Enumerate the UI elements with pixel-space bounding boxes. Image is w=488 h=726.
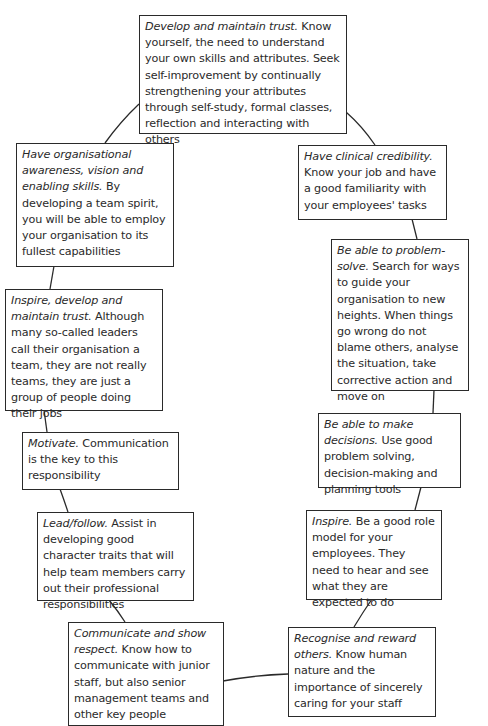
- node-lead: Lead/follow.: [43, 517, 108, 530]
- node-inspire: Inspire. Be a good role model for your e…: [306, 510, 442, 600]
- node-organisational-awareness: Have organisational awareness, vision an…: [16, 143, 174, 267]
- node-body: Assist in developing good character trai…: [43, 517, 185, 611]
- node-make-decisions: Be able to make decisions. Use good prob…: [318, 413, 461, 488]
- node-body: Be a good role model for your employees.…: [312, 515, 435, 609]
- node-problem-solve: Be able to problem-solve. Search for way…: [331, 239, 469, 391]
- node-motivate: Motivate. Communication is the key to th…: [22, 432, 179, 490]
- node-body: Search for ways to guide your organisati…: [337, 260, 460, 403]
- node-clinical-credibility: Have clinical credibility. Know your job…: [298, 145, 447, 220]
- node-lead: Have clinical credibility.: [304, 150, 433, 163]
- node-communicate-respect: Communicate and show respect. Know how t…: [68, 622, 224, 726]
- node-lead: Have organisational awareness, vision an…: [22, 148, 143, 193]
- node-body: Know yourself, the need to understand yo…: [145, 20, 340, 146]
- node-body: Although many so-called leaders call the…: [11, 310, 146, 420]
- node-lead: Motivate.: [28, 437, 79, 450]
- node-inspire-develop-trust: Inspire, develop and maintain trust. Alt…: [5, 289, 163, 411]
- node-recognise-reward: Recognise and reward others. Know human …: [288, 627, 436, 717]
- node-body: Know your job and have a good familiarit…: [304, 166, 436, 211]
- node-lead: Develop and maintain trust.: [145, 20, 298, 33]
- node-lead: Inspire.: [312, 515, 352, 528]
- node-develop-maintain-trust: Develop and maintain trust. Know yoursel…: [139, 15, 347, 134]
- node-lead-follow: Lead/follow. Assist in developing good c…: [37, 512, 194, 601]
